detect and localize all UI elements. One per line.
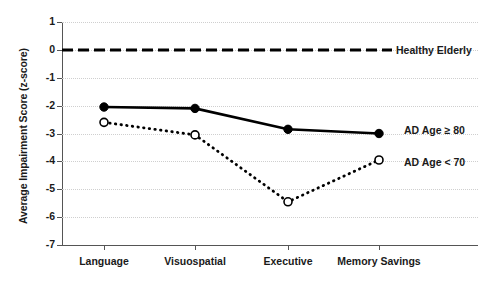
- y-tick-neg7: [57, 245, 62, 246]
- ad-age-lt-70-line: [104, 122, 379, 201]
- y-tick-label: 0: [15, 43, 55, 55]
- chart-figure: Average Impairment Score (z-score) 1 0 -…: [0, 0, 490, 283]
- x-tick-memory-savings: [379, 245, 380, 250]
- data-point: [191, 104, 199, 112]
- y-tick-label: -4: [15, 154, 55, 166]
- x-axis-line: [62, 245, 478, 246]
- data-point: [100, 118, 108, 126]
- data-point: [284, 198, 292, 206]
- x-axis-label: Memory Savings: [309, 255, 449, 267]
- data-point: [284, 125, 292, 133]
- y-tick-label: -3: [15, 127, 55, 139]
- series-label-ad-age-lt-70: AD Age < 70: [404, 156, 465, 168]
- series-ad-age-ge-80: [100, 103, 383, 138]
- series-label-healthy-elderly: Healthy Elderly: [396, 44, 472, 56]
- x-tick-language: [104, 245, 105, 250]
- data-point: [191, 131, 199, 139]
- y-tick-label: -1: [15, 71, 55, 83]
- data-point: [375, 156, 383, 164]
- y-tick-label: 1: [15, 15, 55, 27]
- data-point: [100, 103, 108, 111]
- series-label-ad-age-ge-80: AD Age ≥ 80: [404, 124, 465, 136]
- y-tick-label: -2: [15, 99, 55, 111]
- y-tick-label: -5: [15, 182, 55, 194]
- ad-age-ge-80-line: [104, 107, 379, 133]
- x-tick-executive: [288, 245, 289, 250]
- y-tick-label: -7: [15, 238, 55, 250]
- y-tick-label: -6: [15, 210, 55, 222]
- x-tick-visuospatial: [195, 245, 196, 250]
- data-point: [375, 129, 383, 137]
